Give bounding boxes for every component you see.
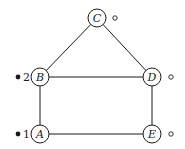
node-c: C xyxy=(88,9,117,27)
open-marker-icon xyxy=(113,16,117,20)
node-label: D xyxy=(147,71,157,84)
edge-b-c xyxy=(40,18,97,77)
order-label: 1 xyxy=(23,128,30,141)
edge-c-d xyxy=(97,18,152,77)
filled-marker-icon xyxy=(16,75,21,80)
graph-diagram: C B 2 D A 1 E xyxy=(0,0,185,149)
node-label: E xyxy=(147,128,156,141)
node-d: D xyxy=(143,68,173,86)
edges xyxy=(40,18,152,134)
filled-marker-icon xyxy=(16,132,21,137)
node-label: A xyxy=(35,128,44,141)
node-a: A 1 xyxy=(16,125,49,143)
order-label: 2 xyxy=(23,71,30,84)
node-label: B xyxy=(35,71,44,84)
node-e: E xyxy=(143,125,173,143)
node-b: B 2 xyxy=(16,68,49,86)
open-marker-icon xyxy=(169,75,173,79)
node-label: C xyxy=(93,12,102,25)
open-marker-icon xyxy=(169,132,173,136)
